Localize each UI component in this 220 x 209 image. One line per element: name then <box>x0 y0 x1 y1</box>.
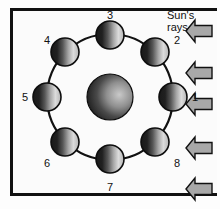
moon-position-4[interactable] <box>51 38 79 66</box>
suns-rays-label: Sun's rays <box>167 9 209 33</box>
moon-label-7: 7 <box>107 182 113 193</box>
sun-rays-arrows-group <box>186 20 212 200</box>
moon-phase-diagram: Sun's rays 12345678 <box>0 0 220 209</box>
moon-position-3[interactable] <box>96 21 124 49</box>
moon-position-5[interactable] <box>33 83 61 111</box>
moon-label-3: 3 <box>107 10 113 21</box>
central-earth-group <box>87 74 133 120</box>
suns-rays-line-2: rays <box>167 21 209 33</box>
moon-position-7[interactable] <box>96 145 124 173</box>
suns-rays-line-1: Sun's <box>167 9 209 21</box>
moon-label-8: 8 <box>174 158 180 169</box>
sun-ray-arrow-5 <box>186 178 212 200</box>
moon-position-1[interactable] <box>159 83 187 111</box>
central-earth <box>87 74 133 120</box>
moon-position-2[interactable] <box>141 38 169 66</box>
moon-label-6: 6 <box>44 158 50 169</box>
sun-ray-arrow-2 <box>186 62 212 84</box>
sun-ray-arrow-3 <box>186 93 212 115</box>
moon-label-4: 4 <box>44 35 50 46</box>
moon-label-2: 2 <box>174 35 180 46</box>
sun-ray-arrow-4 <box>186 137 212 159</box>
moon-position-8[interactable] <box>141 128 169 156</box>
moon-label-5: 5 <box>22 92 28 103</box>
moon-label-1: 1 <box>192 92 198 103</box>
moon-position-6[interactable] <box>51 128 79 156</box>
